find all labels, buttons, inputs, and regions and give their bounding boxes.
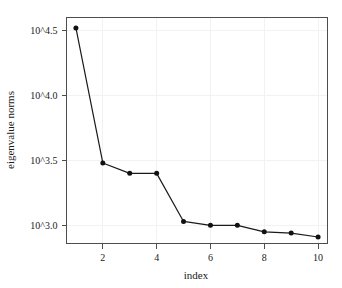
y-tick-label: 10^4.5 (30, 25, 57, 36)
data-point (262, 229, 267, 234)
data-point (235, 223, 240, 228)
x-tick-label: 6 (208, 252, 213, 263)
figure-background (0, 0, 342, 288)
x-axis-title: index (184, 269, 209, 281)
x-tick-label: 10 (313, 252, 323, 263)
data-point (316, 235, 321, 240)
scree-plot-svg: 10^3.010^3.510^4.010^4.5 246810 index ei… (0, 0, 342, 288)
x-tick-label: 8 (262, 252, 267, 263)
data-point (154, 171, 159, 176)
data-point (181, 219, 186, 224)
y-tick-label: 10^4.0 (30, 90, 57, 101)
y-axis-title: eigenvalue norms (4, 91, 16, 169)
chart-figure: 10^3.010^3.510^4.010^4.5 246810 index ei… (0, 0, 342, 288)
y-tick-label: 10^3.5 (30, 155, 57, 166)
data-point (100, 160, 105, 165)
x-tick-label: 4 (154, 252, 159, 263)
x-tick-label: 2 (100, 252, 105, 263)
y-tick-label: 10^3.0 (30, 220, 57, 231)
data-point (289, 231, 294, 236)
data-point (127, 171, 132, 176)
data-point (73, 25, 78, 30)
data-point (208, 223, 213, 228)
